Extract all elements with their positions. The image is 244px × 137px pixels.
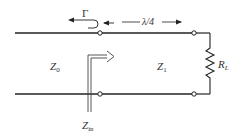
load-resistor-icon (206, 33, 214, 94)
junction-node-top-right (192, 31, 196, 35)
input-impedance-label: Zin (82, 119, 94, 133)
reflection-coefficient-label: Γ (82, 7, 88, 19)
top-conductor (15, 31, 210, 35)
z1-label: Z1 (157, 60, 167, 74)
diagram-svg: Γ λ/4 Z0 Z1 RL Zin (0, 0, 244, 137)
junction-node-top-left (98, 31, 102, 35)
quarter-wave-length-label: λ/4 (141, 16, 154, 27)
reflection-arrow-icon (68, 18, 114, 29)
input-impedance-arrow-icon (88, 51, 114, 112)
z0-label: Z0 (50, 60, 60, 74)
junction-node-bottom-right (192, 92, 196, 96)
junction-node-bottom-left (98, 92, 102, 96)
load-resistance-label: RL (217, 58, 229, 72)
transmission-line-diagram: Γ λ/4 Z0 Z1 RL Zin (0, 0, 244, 137)
bottom-conductor (15, 92, 210, 96)
